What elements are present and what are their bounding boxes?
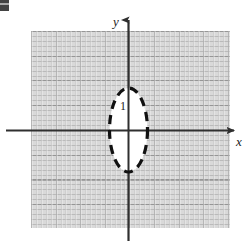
figure-container: y x 1 (0, 0, 251, 246)
y-axis-label: y (113, 15, 119, 28)
axes-and-curve-layer (0, 0, 251, 246)
x-axis-label: x (236, 135, 242, 148)
ellipse-radius-annotation: 1 (120, 100, 126, 112)
